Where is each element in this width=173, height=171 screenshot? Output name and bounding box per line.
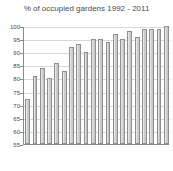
bar	[142, 29, 147, 144]
bar	[84, 52, 89, 144]
bar	[157, 29, 162, 144]
bar	[106, 42, 111, 144]
y-tick-label: 90	[13, 50, 20, 56]
bar	[113, 34, 118, 144]
bar	[62, 71, 67, 144]
chart-title: % of occupied gardens 1992 - 2011	[0, 3, 173, 14]
y-tick-label: 60	[13, 129, 20, 135]
y-tick-mark	[20, 145, 23, 146]
bar	[47, 78, 52, 144]
y-tick-label: 75	[13, 90, 20, 96]
bar	[164, 26, 169, 144]
bar	[54, 63, 59, 144]
bar	[69, 47, 74, 144]
bar	[91, 39, 96, 144]
y-tick-label: 80	[13, 76, 20, 82]
bar	[25, 99, 30, 144]
y-tick-label: 85	[13, 63, 20, 69]
plot-area	[23, 27, 169, 145]
y-tick-label: 70	[13, 103, 20, 109]
y-tick-label: 95	[13, 37, 20, 43]
bar	[127, 31, 132, 144]
bar	[135, 37, 140, 145]
bar	[120, 39, 125, 144]
bar	[76, 44, 81, 144]
bar	[40, 68, 45, 144]
chart-container: % of occupied gardens 1992 - 2011 100959…	[0, 0, 173, 171]
bar-series	[24, 26, 170, 144]
bar	[149, 29, 154, 144]
bar	[98, 39, 103, 144]
y-axis: 100959085807570656055	[0, 0, 23, 171]
bar	[33, 76, 38, 144]
y-tick-label: 55	[13, 142, 20, 148]
y-tick-label: 65	[13, 116, 20, 122]
y-tick-label: 100	[10, 24, 20, 30]
